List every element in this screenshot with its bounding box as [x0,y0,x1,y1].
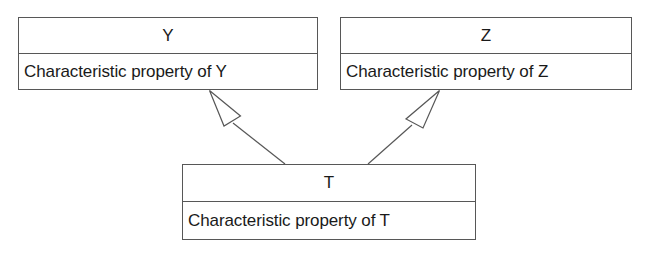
hollow-triangle-arrowhead-y [210,91,241,127]
generalization-line-t-to-z [368,125,412,164]
generalization-line-t-to-y [233,123,285,164]
uml-class-z-name: Z [341,18,631,54]
generalization-t-to-y[interactable] [210,91,286,165]
uml-class-z[interactable]: Z Characteristic property of Z [340,17,632,90]
uml-class-t[interactable]: T Characteristic property of T [182,164,476,240]
uml-class-y-attributes: Characteristic property of Y [19,54,317,90]
uml-class-diagram: Y Characteristic property of Y Z Charact… [0,0,650,253]
uml-class-y-name: Y [19,18,317,54]
uml-class-t-name: T [183,165,475,202]
uml-class-y[interactable]: Y Characteristic property of Y [18,17,318,90]
hollow-triangle-arrowhead-z [406,91,440,129]
uml-class-t-attributes: Characteristic property of T [183,202,475,240]
generalization-t-to-z[interactable] [368,91,440,165]
uml-class-z-attributes: Characteristic property of Z [341,54,631,90]
